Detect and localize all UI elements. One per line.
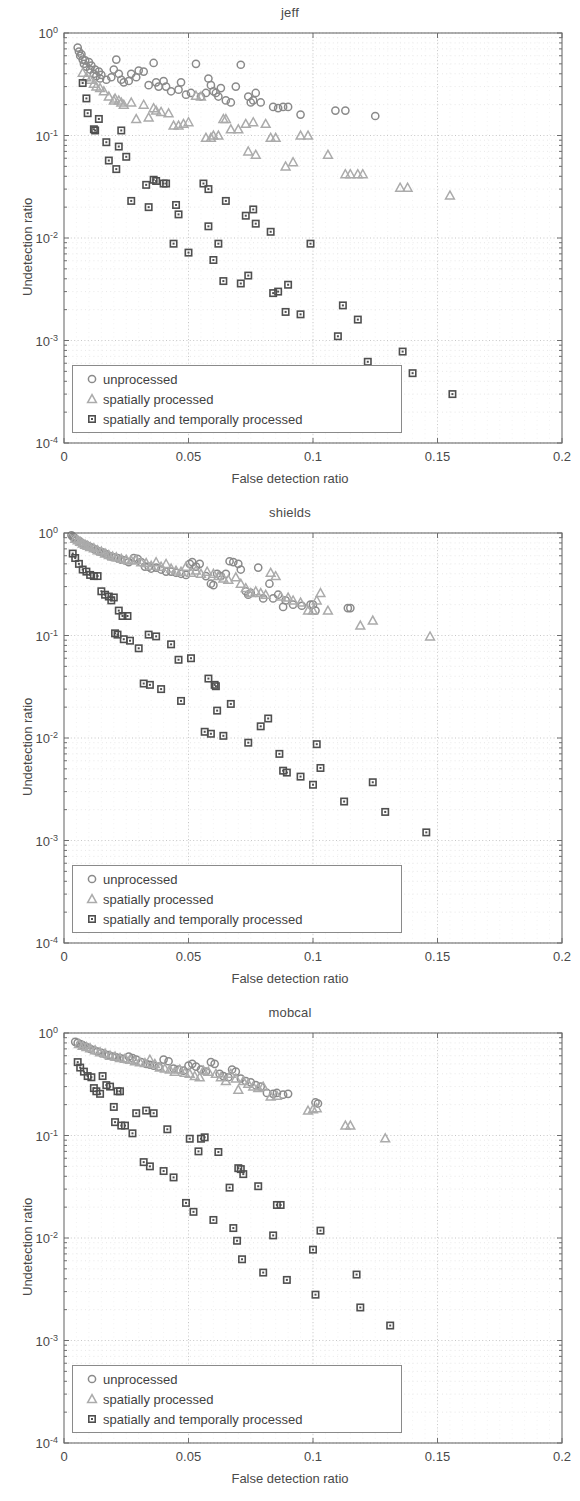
y-axis-label: Undetection ratio: [20, 1198, 35, 1296]
y-tick-label: 10-4: [36, 935, 58, 951]
legend-item: spatially and temporally processed: [73, 1409, 401, 1429]
x-tick-label: 0: [60, 949, 67, 964]
legend-item: spatially and temporally processed: [73, 909, 401, 929]
x-axis-label: False detection ratio: [0, 971, 580, 986]
square-marker: [89, 416, 95, 422]
x-tick-label: 0.15: [425, 949, 450, 964]
legend-label: spatially processed: [103, 392, 214, 407]
y-tick-label: 100: [39, 525, 58, 541]
circle-marker: [81, 872, 103, 886]
figure-container: jeff 00.050.10.150.210010-110-210-310-4F…: [0, 0, 580, 1501]
y-tick-label: 10-4: [36, 435, 58, 451]
chart-panel-shields: shields 00.050.10.150.210010-110-210-310…: [0, 500, 580, 1000]
legend-label: spatially and temporally processed: [103, 412, 302, 427]
x-tick-label: 0: [60, 449, 67, 464]
legend-item: spatially and temporally processed: [73, 409, 401, 429]
chart-legend: unprocessedspatially processedspatially …: [72, 1365, 402, 1433]
x-axis-label: False detection ratio: [0, 471, 580, 486]
triangle-marker: [88, 895, 97, 903]
legend-label: spatially processed: [103, 1392, 214, 1407]
legend-label: spatially and temporally processed: [103, 1412, 302, 1427]
legend-label: unprocessed: [103, 1372, 177, 1387]
chart-legend: unprocessedspatially processedspatially …: [72, 365, 402, 433]
x-tick-label: 0.1: [304, 449, 322, 464]
y-tick-label: 10-1: [36, 1127, 58, 1143]
x-tick-label: 0.1: [304, 949, 322, 964]
square-marker: [81, 412, 103, 426]
x-tick-label: 0.2: [553, 1449, 571, 1464]
y-tick-label: 10-3: [36, 332, 58, 348]
square-marker: [89, 1416, 95, 1422]
y-tick-label: 10-2: [36, 730, 58, 746]
legend-label: spatially processed: [103, 892, 214, 907]
y-tick-label: 10-4: [36, 1435, 58, 1451]
x-tick-label: 0.15: [425, 1449, 450, 1464]
legend-label: spatially and temporally processed: [103, 912, 302, 927]
y-tick-label: 100: [39, 25, 58, 41]
triangle-marker: [88, 395, 97, 403]
legend-item: unprocessed: [73, 1369, 401, 1389]
x-tick-label: 0.1: [304, 1449, 322, 1464]
triangle-marker: [81, 892, 103, 906]
x-tick-label: 0.2: [553, 449, 571, 464]
legend-item: spatially processed: [73, 1389, 401, 1409]
legend-item: spatially processed: [73, 889, 401, 909]
legend-label: unprocessed: [103, 872, 177, 887]
x-tick-label: 0.15: [425, 449, 450, 464]
circle-marker: [81, 372, 103, 386]
y-axis-label: Undetection ratio: [20, 698, 35, 796]
legend-item: unprocessed: [73, 369, 401, 389]
y-tick-label: 10-3: [36, 832, 58, 848]
x-tick-label: 0: [60, 1449, 67, 1464]
x-tick-label: 0.05: [176, 1449, 201, 1464]
x-tick-label: 0.05: [176, 449, 201, 464]
x-tick-label: 0.2: [553, 949, 571, 964]
circle-marker: [81, 1372, 103, 1386]
legend-label: unprocessed: [103, 372, 177, 387]
circle-marker: [88, 375, 95, 382]
y-tick-label: 10-2: [36, 1230, 58, 1246]
y-tick-label: 10-2: [36, 230, 58, 246]
triangle-marker: [88, 1395, 97, 1403]
chart-panel-mobcal: mobcal 00.050.10.150.210010-110-210-310-…: [0, 1000, 580, 1500]
x-axis-label: False detection ratio: [0, 1471, 580, 1486]
square-marker: [81, 912, 103, 926]
y-tick-label: 10-3: [36, 1332, 58, 1348]
y-tick-label: 10-1: [36, 627, 58, 643]
y-tick-label: 100: [39, 1025, 58, 1041]
square-marker: [81, 1412, 103, 1426]
legend-item: unprocessed: [73, 869, 401, 889]
y-axis-label: Undetection ratio: [20, 198, 35, 296]
legend-item: spatially processed: [73, 389, 401, 409]
circle-marker: [88, 875, 95, 882]
chart-legend: unprocessedspatially processedspatially …: [72, 865, 402, 933]
square-marker: [89, 916, 95, 922]
chart-panel-jeff: jeff 00.050.10.150.210010-110-210-310-4F…: [0, 0, 580, 500]
y-tick-label: 10-1: [36, 127, 58, 143]
x-tick-label: 0.05: [176, 949, 201, 964]
triangle-marker: [81, 392, 103, 406]
circle-marker: [88, 1375, 95, 1382]
triangle-marker: [81, 1392, 103, 1406]
